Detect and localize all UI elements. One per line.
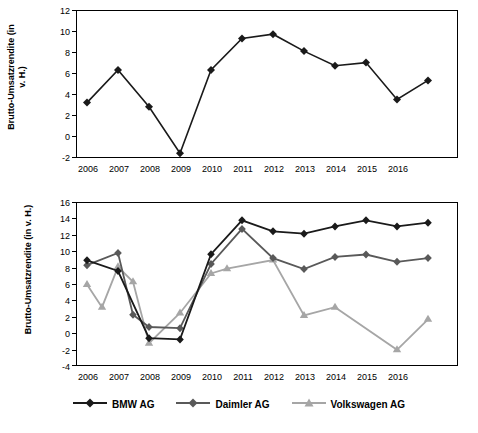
chart-bottom-y-axis-label: Brutto-Umsatzrendite (in v. H.) — [23, 200, 34, 340]
chart-bottom-ytick-6: 6 — [44, 280, 70, 290]
chart-top-ytickmark — [72, 31, 76, 32]
legend-marker-diamond-icon — [73, 395, 107, 413]
chart-bottom: Brutto-Umsatzrendite (in v. H.) — [0, 196, 478, 386]
chart-bottom-series-bmw-markers — [83, 216, 432, 343]
chart-top-ytick-2: 2 — [44, 111, 70, 121]
chart-top-ytickmark — [72, 52, 76, 53]
chart-top-ytick-6: 6 — [44, 69, 70, 79]
chart-top-ytickmark — [72, 157, 76, 158]
chart-top-series-bmw-line — [87, 34, 428, 153]
chart-top-ytick-4: 4 — [44, 90, 70, 100]
chart-top-plot-area — [76, 10, 458, 158]
chart-top-xtick-2016: 2016 — [376, 164, 420, 174]
legend-item-bmw: BMW AG — [73, 395, 154, 413]
chart-bottom-ytickmark — [72, 202, 76, 203]
chart-bottom-ytickmark — [72, 350, 76, 351]
chart-top-ytickmark — [72, 10, 76, 11]
legend-marker-triangle-icon — [292, 395, 326, 413]
chart-top-ytick--2: -2 — [44, 153, 70, 163]
chart-bottom-ytickmark — [72, 284, 76, 285]
chart-bottom-plot-area — [76, 202, 458, 366]
legend-label-daimler: Daimler AG — [215, 399, 269, 410]
chart-top-y-axis-label: Brutto-Umsatzrendite (in v. H.) — [6, 22, 28, 132]
chart-bottom-ytick-2: 2 — [44, 313, 70, 323]
chart-bottom-ytickmark — [72, 268, 76, 269]
chart-bottom-ytick-8: 8 — [44, 264, 70, 274]
chart-bottom-ytick-12: 12 — [44, 231, 70, 241]
chart-legend: BMW AG Daimler AG Volkswagen AG — [0, 392, 478, 416]
chart-bottom-series-bmw-line — [87, 220, 428, 339]
chart-bottom-ytickmark — [72, 251, 76, 252]
chart-bottom-svg — [77, 203, 457, 365]
chart-bottom-ytick--4: -4 — [44, 362, 70, 372]
chart-bottom-ytick-10: 10 — [44, 247, 70, 257]
chart-top-ytick-0: 0 — [44, 132, 70, 142]
chart-bottom-ytick-14: 14 — [44, 214, 70, 224]
chart-top-ytick-12: 12 — [44, 6, 70, 16]
chart-top-ytickmark — [72, 94, 76, 95]
legend-marker-diamond-icon — [176, 395, 210, 413]
legend-label-volkswagen: Volkswagen AG — [331, 399, 405, 410]
chart-top-svg — [77, 11, 457, 157]
chart-bottom-ytickmark — [72, 235, 76, 236]
chart-bottom-ytickmark — [72, 300, 76, 301]
chart-bottom-ytick-4: 4 — [44, 296, 70, 306]
chart-bottom-ytick-0: 0 — [44, 329, 70, 339]
chart-bottom-series-vw-line — [87, 260, 428, 350]
chart-bottom-series-daimler-markers — [83, 225, 432, 332]
chart-top-ytickmark — [72, 73, 76, 74]
chart-top-ytickmark — [72, 136, 76, 137]
chart-bottom-ytickmark — [72, 333, 76, 334]
chart-bottom-ytick--2: -2 — [44, 346, 70, 356]
legend-item-daimler: Daimler AG — [176, 395, 269, 413]
chart-top-ytickmark — [72, 115, 76, 116]
chart-bottom-ytick-16: 16 — [44, 198, 70, 208]
chart-bottom-xtick-2016: 2016 — [376, 372, 420, 382]
chart-top-ytick-10: 10 — [44, 27, 70, 37]
chart-bottom-ytickmark — [72, 218, 76, 219]
legend-label-bmw: BMW AG — [112, 399, 154, 410]
chart-top-series-bmw-markers — [83, 30, 432, 157]
chart-bottom-ytickmark — [72, 365, 76, 366]
chart-top: Brutto-Umsatzrendite (in v. H.) — [0, 4, 478, 192]
legend-item-volkswagen: Volkswagen AG — [292, 395, 405, 413]
chart-top-ytick-8: 8 — [44, 48, 70, 58]
chart-bottom-ytickmark — [72, 317, 76, 318]
chart-page: Brutto-Umsatzrendite (in v. H.) — [0, 0, 478, 433]
